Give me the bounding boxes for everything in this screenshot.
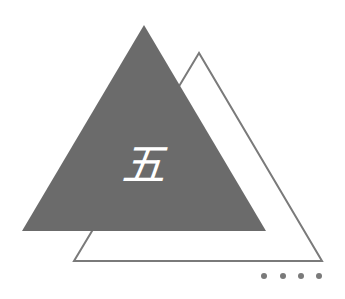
dot-icon — [261, 273, 267, 279]
decorative-figure: 五 — [0, 0, 345, 299]
dots-ornament — [261, 273, 322, 279]
dot-icon — [298, 273, 304, 279]
dot-icon — [316, 273, 322, 279]
chapter-character: 五 — [121, 139, 168, 190]
dot-icon — [280, 273, 286, 279]
